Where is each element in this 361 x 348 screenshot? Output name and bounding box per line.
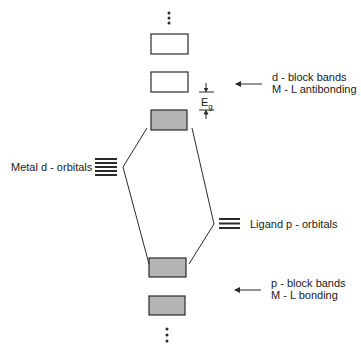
ligand-p-orbital-levels: [219, 219, 240, 228]
metal-orbitals-label: Metal d - orbitals: [11, 161, 92, 173]
label-arrows: [235, 84, 262, 290]
band-gap-label: Eg: [201, 96, 213, 113]
d-block-label: d - block bands M - L antibonding: [272, 71, 357, 95]
p-block-label-line1: p - block bands: [271, 277, 346, 289]
ellipsis-dot: [166, 334, 169, 337]
connector-line: [189, 128, 214, 264]
band-p-band-top: [151, 110, 187, 130]
band-gap-subscript: g: [208, 102, 212, 111]
band-p-band-lower: [149, 296, 185, 315]
connector-lines: [123, 128, 214, 264]
ellipsis-dot: [168, 17, 171, 20]
ellipsis-top-icon: [168, 12, 171, 25]
band-d-band-upper: [151, 34, 188, 54]
ligand-orbitals-label: Ligand p - orbitals: [250, 218, 337, 230]
band-p-band-upper: [149, 258, 186, 277]
d-block-label-line1: d - block bands: [272, 71, 357, 83]
ellipsis-dot: [168, 22, 171, 25]
metal-d-orbital-levels: [95, 159, 117, 175]
ellipsis-dot: [168, 12, 171, 15]
ellipsis-dot: [166, 328, 169, 331]
connector-line: [123, 128, 149, 264]
p-block-label-line2: M - L bonding: [271, 289, 346, 301]
band-d-band-lower: [151, 72, 188, 92]
energy-bands: [149, 34, 188, 315]
d-block-label-line2: M - L antibonding: [272, 83, 357, 95]
p-block-label: p - block bands M - L bonding: [271, 277, 346, 301]
ellipsis-bottom-icon: [166, 328, 169, 343]
ellipsis-dot: [166, 340, 169, 343]
